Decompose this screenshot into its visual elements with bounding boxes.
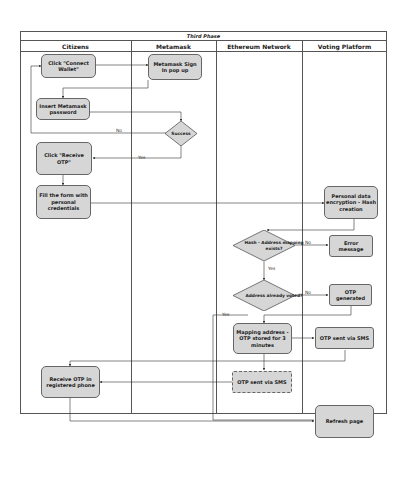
- node-error-message: Error message: [329, 235, 373, 257]
- node-mapping-stored: Mapping address - OTP stored for 3 minut…: [233, 323, 292, 354]
- edge-label-voted-no: No: [305, 290, 311, 295]
- node-receive-otp-phone: Receive OTP in registered phone: [41, 366, 100, 398]
- node-refresh-page: Refresh page: [315, 405, 374, 438]
- node-encryption: Personal data encryption - Hash creation: [324, 186, 378, 219]
- edge-label-success-yes: Yes: [138, 155, 145, 160]
- node-connect-wallet: Click "Connect Wallet": [41, 54, 96, 78]
- node-metamask-signin: Metamask Sign In pop up: [148, 54, 202, 80]
- node-fill-form: Fill the form with personal credentials: [36, 185, 91, 219]
- edge-label-voted-yes: Yes: [222, 312, 229, 317]
- edge-label-success-no: No: [116, 128, 122, 133]
- decision-success-label: Success: [165, 121, 197, 146]
- node-insert-password: Insert Metamask password: [36, 98, 90, 120]
- node-otp-generated: OTP generated: [329, 284, 372, 306]
- decision-already-voted: Address already voted?: [233, 280, 295, 311]
- decision-hash-exists-label: Hash - Address mapping exists?: [233, 230, 315, 261]
- decision-success: Success: [165, 121, 197, 146]
- node-otp-sent-platform: OTP sent via SMS: [315, 327, 374, 349]
- node-otp-sent-network: OTP sent via SMS: [232, 371, 292, 393]
- decision-already-voted-label: Address already voted?: [233, 280, 315, 311]
- node-click-receive-otp: Click "Receive OTP": [36, 142, 92, 175]
- decision-hash-exists: Hash - Address mapping exists?: [233, 230, 295, 261]
- edge-label-hash-no: No: [305, 240, 311, 245]
- edge-label-hash-yes: Yes: [268, 266, 275, 271]
